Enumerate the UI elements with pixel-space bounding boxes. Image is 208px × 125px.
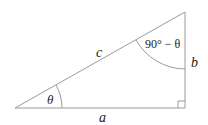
label-c: c (96, 45, 103, 60)
label-b: b (191, 55, 198, 70)
right-angle-marker (178, 101, 185, 108)
theta-arc (56, 85, 62, 108)
label-theta: θ (47, 92, 54, 107)
label-a: a (99, 110, 106, 125)
triangle-diagram: c a b θ 90° − θ (0, 0, 208, 125)
label-complement-angle: 90° − θ (145, 37, 181, 51)
triangle (15, 12, 185, 108)
